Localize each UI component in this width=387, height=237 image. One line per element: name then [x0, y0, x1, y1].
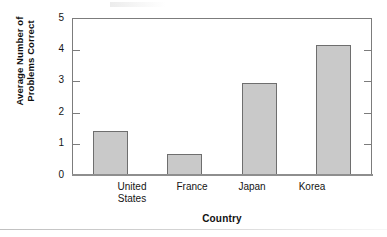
y-tick-label-5: 5 [8, 12, 64, 23]
x-category-label-japan: Japan [222, 181, 282, 193]
x-axis-title: Country [72, 213, 372, 224]
x-category-label-united-states: United States [102, 181, 162, 204]
y-tick-mark-right-3 [364, 81, 371, 82]
y-tick-label-3: 3 [8, 74, 64, 85]
plot-area [72, 18, 372, 175]
bar-united-states [93, 131, 128, 174]
y-tick-mark-right-4 [364, 50, 371, 51]
bar-chart-figure: Average Number of Problems Correct 5 4 3… [0, 0, 387, 237]
x-category-label-japan-line-1: Japan [222, 181, 282, 193]
x-axis-baseline [72, 174, 373, 176]
x-category-label-france-line-1: France [162, 181, 222, 193]
y-tick-label-1: 1 [8, 137, 64, 148]
scan-artifact-bottom [0, 229, 387, 230]
y-tick-mark-right-2 [364, 113, 371, 114]
scan-artifact-top [110, 2, 190, 7]
y-tick-mark-left-4 [73, 50, 80, 51]
y-axis-title-line-2: Problems Correct [25, 20, 37, 101]
x-category-label-united-states-line-2: States [102, 193, 162, 205]
x-category-label-korea-line-1: Korea [282, 181, 342, 193]
x-category-label-united-states-line-1: United [102, 181, 162, 193]
y-tick-mark-left-2 [73, 113, 80, 114]
x-category-label-france: France [162, 181, 222, 193]
y-axis-title-line-1: Average Number of [14, 17, 26, 106]
bar-korea [316, 45, 351, 174]
y-tick-label-2: 2 [8, 106, 64, 117]
bar-france [167, 154, 202, 174]
y-tick-mark-left-3 [73, 81, 80, 82]
x-category-label-korea: Korea [282, 181, 342, 193]
y-tick-label-0: 0 [8, 169, 64, 180]
y-tick-mark-left-1 [73, 144, 80, 145]
y-tick-mark-right-1 [364, 144, 371, 145]
bar-japan [242, 83, 277, 174]
y-tick-label-4: 4 [8, 43, 64, 54]
